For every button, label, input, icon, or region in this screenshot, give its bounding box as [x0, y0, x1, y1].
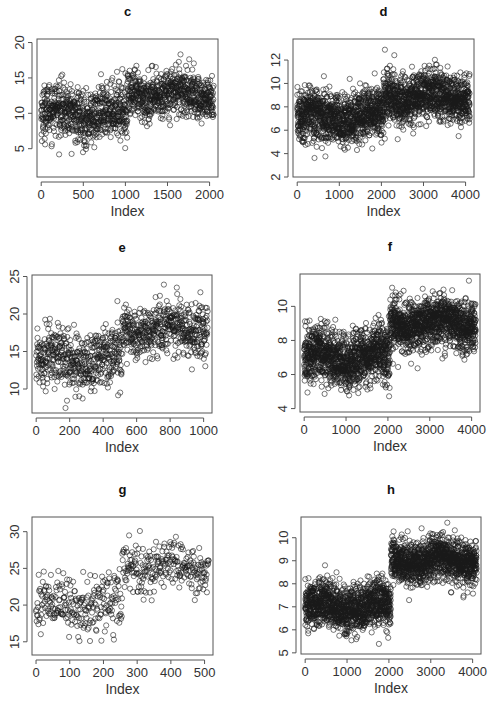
x-axis: 01000200030004000: [302, 659, 488, 679]
x-tick-label: 4000: [458, 664, 487, 679]
y-tick-label: 6: [276, 626, 291, 633]
x-tick-label: 1000: [333, 664, 362, 679]
data-points: [303, 520, 480, 646]
y-tick-label: 7: [276, 603, 291, 610]
panel-title: h: [387, 482, 395, 497]
x-tick-label: 0: [302, 664, 309, 679]
x-tick-label: 2000: [374, 664, 403, 679]
y-tick-label: 10: [276, 530, 291, 544]
y-axis: 5678910: [276, 530, 296, 656]
x-tick-label: 3000: [416, 664, 445, 679]
scatter-panel-h: 01000200030004000Index5678910h: [0, 0, 496, 707]
x-axis-label: Index: [374, 680, 408, 696]
y-tick-label: 5: [276, 649, 291, 656]
y-tick-label: 8: [276, 580, 291, 587]
y-tick-label: 9: [276, 557, 291, 564]
